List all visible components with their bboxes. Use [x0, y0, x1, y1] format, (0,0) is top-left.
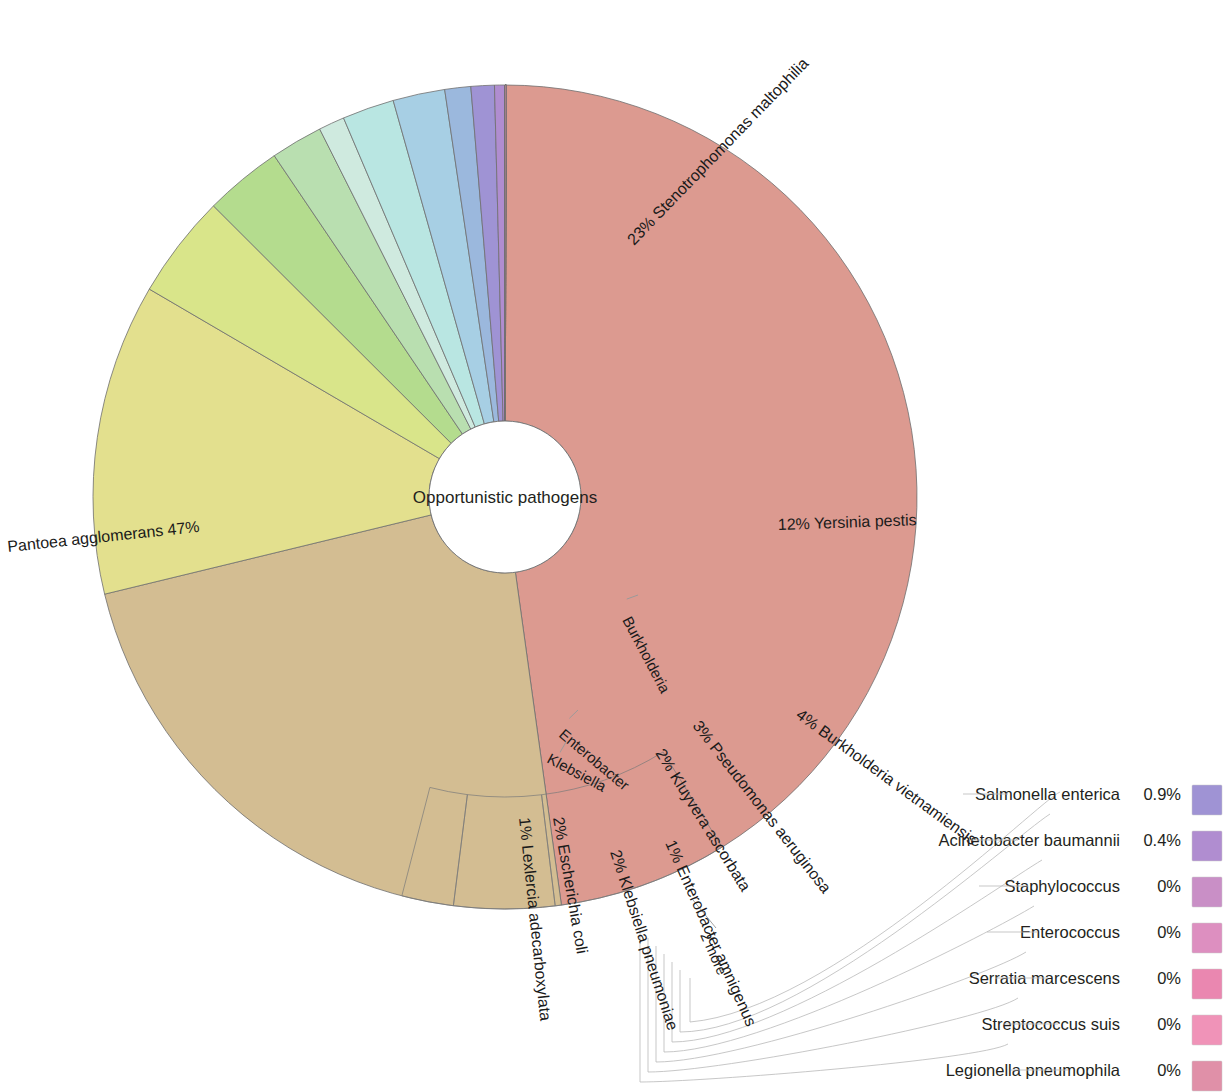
legend-value-serratia-marcescens: 0%	[1157, 969, 1181, 987]
legend-swatch-acinetobacter-baumannii[interactable]	[1192, 831, 1222, 861]
legend-swatch-salmonella-enterica[interactable]	[1192, 785, 1222, 815]
legend-value-enterococcus: 0%	[1157, 923, 1181, 941]
legend-value-staphylococcus: 0%	[1157, 877, 1181, 895]
donut-chart: Opportunistic pathogens Pantoea agglomer…	[0, 0, 1231, 1092]
legend-swatch-enterococcus[interactable]	[1192, 923, 1222, 953]
legend-value-salmonella-enterica: 0.9%	[1143, 785, 1181, 803]
legend-label-acinetobacter-baumannii: Acinetobacter baumannii	[938, 831, 1120, 849]
legend-swatch-streptococcus-suis[interactable]	[1192, 1015, 1222, 1045]
slice-label-burkholderia-vietnamiensis: 4% Burkholderia vietnamiensis	[793, 706, 980, 848]
legend-swatch-legionella-pneumophila[interactable]	[1192, 1061, 1222, 1091]
legend-swatch-serratia-marcescens[interactable]	[1192, 969, 1222, 999]
donut-chart-container: Opportunistic pathogens Pantoea agglomer…	[0, 0, 1231, 1092]
legend-value-legionella-pneumophila: 0%	[1157, 1061, 1181, 1079]
legend-value-streptococcus-suis: 0%	[1157, 1015, 1181, 1033]
center-label: Opportunistic pathogens	[413, 488, 597, 507]
legend: Salmonella enterica0.9%Acinetobacter bau…	[938, 785, 1222, 1091]
legend-swatch-staphylococcus[interactable]	[1192, 877, 1222, 907]
legend-value-acinetobacter-baumannii: 0.4%	[1143, 831, 1181, 849]
